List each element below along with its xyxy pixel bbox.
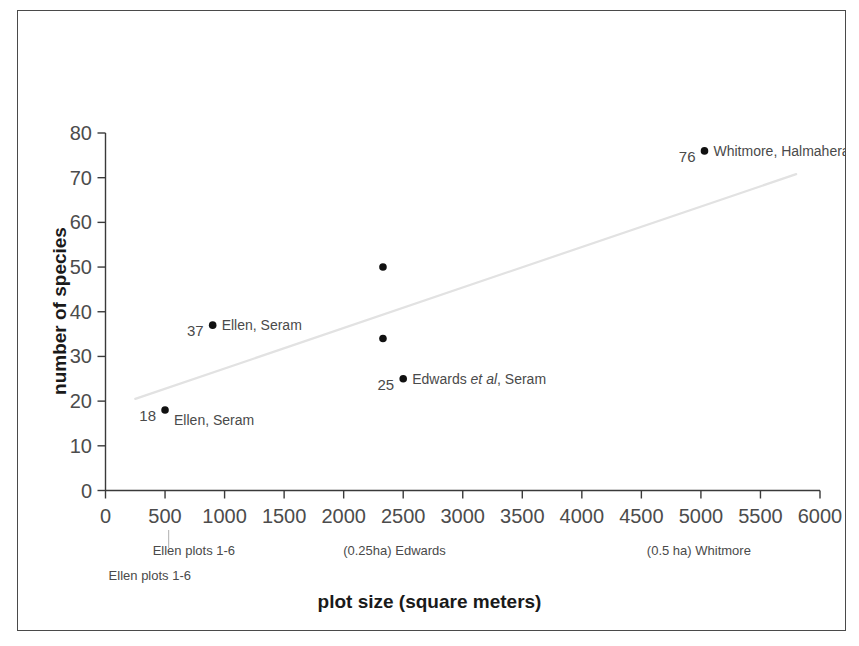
x-tick-label: 5500: [738, 505, 783, 528]
y-tick-label: 70: [35, 166, 92, 189]
x-tick-label: 2000: [321, 505, 366, 528]
figure-clip-region: 01020304050607080 0500100015002000250030…: [17, 10, 846, 631]
x-tick-label: 4500: [619, 505, 664, 528]
x-tick-marks: [106, 491, 821, 499]
chart-svg: [17, 10, 846, 631]
data-point-value: 76: [679, 148, 696, 165]
data-point: [379, 263, 387, 271]
x-tick-label: 2500: [381, 505, 426, 528]
category-annotation: Ellen plots 1-6: [109, 568, 191, 583]
data-point-value: 25: [378, 376, 395, 393]
data-point: [379, 335, 387, 343]
data-point-name: Edwards et al, Seram: [412, 371, 546, 387]
category-annotation: Ellen plots 1-6: [153, 543, 235, 558]
y-tick-label: 0: [35, 479, 92, 502]
data-point: [209, 321, 217, 329]
data-point: [701, 147, 709, 155]
trendline: [135, 174, 796, 399]
category-annotation: (0.5 ha) Whitmore: [647, 543, 751, 558]
x-axis-title: plot size (square meters): [17, 591, 846, 613]
y-tick-label: 10: [35, 434, 92, 457]
trendline-group: [135, 174, 796, 399]
x-tick-label: 0: [100, 505, 111, 528]
data-point-name: Whitmore, Halmahera: [713, 143, 846, 159]
x-tick-label: 1000: [202, 505, 247, 528]
y-tick-marks: [98, 133, 106, 491]
data-point-value: 18: [139, 407, 156, 424]
data-point-value: 37: [187, 322, 204, 339]
data-point: [399, 375, 407, 383]
category-annotation: (0.25ha) Edwards: [343, 543, 446, 558]
figure-canvas: 01020304050607080 0500100015002000250030…: [0, 0, 859, 646]
data-point-name: Ellen, Seram: [174, 412, 254, 428]
x-tick-label: 6000: [798, 505, 843, 528]
x-tick-label: 1500: [262, 505, 307, 528]
x-tick-label: 4000: [560, 505, 605, 528]
data-point-name: Ellen, Seram: [222, 317, 302, 333]
x-tick-label: 500: [148, 505, 181, 528]
x-tick-label: 5000: [679, 505, 724, 528]
axes-group: [105, 133, 820, 491]
data-point: [161, 406, 169, 414]
y-axis-title: number of species: [49, 211, 71, 411]
y-tick-label: 80: [35, 122, 92, 145]
x-tick-label: 3500: [500, 505, 545, 528]
x-tick-label: 3000: [441, 505, 486, 528]
plot-area: 01020304050607080 0500100015002000250030…: [17, 10, 846, 631]
